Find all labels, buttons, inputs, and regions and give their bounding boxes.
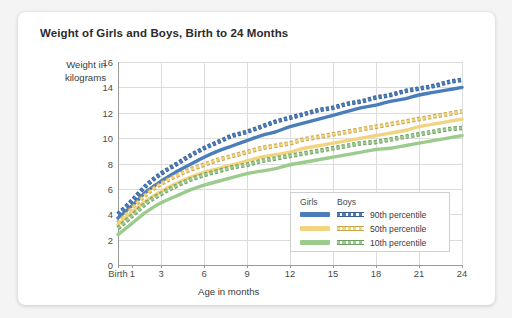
legend-row-50th: 50th percentile	[300, 223, 426, 238]
legend-swatch-boys-50th	[337, 226, 364, 231]
legend-swatch-girls-90th	[300, 212, 330, 217]
y-tick-6: 6	[108, 183, 113, 194]
legend-header-girls: Girls	[300, 197, 337, 207]
legend-label-90th: 90th percentile	[370, 210, 426, 220]
legend-swatch-girls-10th	[300, 240, 330, 245]
x-axis-label: Age in months	[198, 286, 259, 297]
x-tick-3: 3	[158, 268, 163, 279]
legend-header: GirlsBoys	[300, 197, 356, 207]
x-tick-15: 15	[328, 268, 338, 279]
legend-swatch-boys-90th	[337, 212, 364, 217]
y-tick-14: 14	[103, 82, 113, 93]
plot-area: 0246810121416 Birth13691215182124 GirlsB…	[118, 62, 462, 265]
y-axis-label: Weight in kilograms	[34, 59, 106, 84]
y-axis-label-line2: kilograms	[34, 72, 106, 85]
x-tick-21: 21	[414, 268, 424, 279]
legend-label-50th: 50th percentile	[370, 224, 426, 234]
legend-label-10th: 10th percentile	[370, 238, 426, 248]
page-background: Weight of Girls and Boys, Birth to 24 Mo…	[0, 0, 512, 318]
legend-row-10th: 10th percentile	[300, 237, 426, 252]
x-tick-12: 12	[285, 268, 295, 279]
y-tick-2: 2	[108, 234, 113, 245]
x-tick-18: 18	[371, 268, 381, 279]
legend-swatch-boys-10th	[337, 240, 364, 245]
x-tick-1: 1	[130, 268, 135, 279]
y-tick-16: 16	[103, 57, 113, 68]
y-tick-12: 12	[103, 107, 113, 118]
x-tick-6: 6	[201, 268, 206, 279]
x-tick-birth: Birth	[108, 268, 127, 279]
y-tick-10: 10	[103, 133, 113, 144]
x-tick-24: 24	[457, 268, 467, 279]
legend-swatch-girls-50th	[300, 226, 330, 231]
chart-title: Weight of Girls and Boys, Birth to 24 Mo…	[40, 27, 288, 39]
y-tick-4: 4	[108, 209, 113, 220]
gridline-x-24	[462, 62, 463, 265]
legend: GirlsBoys 90th percentile50th percentile…	[290, 192, 450, 252]
chart-card: Weight of Girls and Boys, Birth to 24 Mo…	[18, 12, 495, 305]
legend-row-90th: 90th percentile	[300, 209, 426, 224]
y-axis-label-line1: Weight in	[34, 59, 106, 72]
legend-header-boys: Boys	[337, 197, 356, 207]
y-tick-8: 8	[108, 158, 113, 169]
x-tick-9: 9	[244, 268, 249, 279]
